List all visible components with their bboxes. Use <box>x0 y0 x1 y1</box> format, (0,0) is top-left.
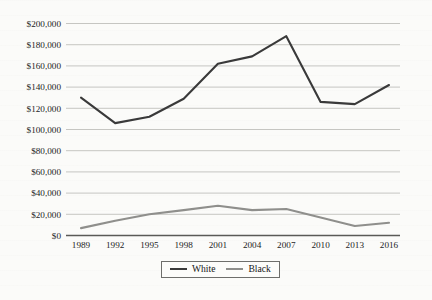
legend-entry-black: Black <box>226 264 270 274</box>
legend-label-white: White <box>192 264 215 274</box>
y-axis-tick-label: $60,000 <box>31 167 61 177</box>
x-axis-tick-label: 2013 <box>346 240 365 250</box>
line-chart-svg: $0$20,000$40,000$60,000$80,000$100,000$1… <box>0 0 432 300</box>
y-axis-tick-label: $20,000 <box>31 210 61 220</box>
x-axis-tick-label: 1992 <box>106 240 125 250</box>
y-axis-tick-label: $200,000 <box>27 19 62 29</box>
legend-label-black: Black <box>248 264 270 274</box>
y-axis-tick-label: $120,000 <box>27 104 62 114</box>
series-black-group <box>81 206 389 228</box>
y-axis-tick-label: $0 <box>52 231 62 241</box>
legend-entry-white: White <box>170 264 215 274</box>
x-axis-tick-label: 1998 <box>175 240 194 250</box>
x-axis-tick-label: 2001 <box>209 240 228 250</box>
y-axis-tick-labels: $0$20,000$40,000$60,000$80,000$100,000$1… <box>27 19 62 241</box>
plot-area: $0$20,000$40,000$60,000$80,000$100,000$1… <box>0 0 432 300</box>
chart-container: $0$20,000$40,000$60,000$80,000$100,000$1… <box>0 0 432 300</box>
y-axis-tick-label: $100,000 <box>27 125 62 135</box>
gridlines-group <box>66 24 400 215</box>
x-axis-tick-label: 1995 <box>140 240 159 250</box>
y-axis-tick-label: $140,000 <box>27 82 62 92</box>
y-axis-tick-label: $180,000 <box>27 40 62 50</box>
x-axis-tick-label: 2004 <box>243 240 262 250</box>
y-axis-tick-label: $160,000 <box>27 61 62 71</box>
x-axis-tick-label: 1989 <box>72 240 91 250</box>
legend-line-swatch-white-icon <box>170 268 187 270</box>
y-axis-tick-label: $80,000 <box>31 146 61 156</box>
chart-legend: White Black <box>161 261 280 278</box>
legend-line-swatch-black-icon <box>226 268 243 270</box>
series-white-group <box>81 36 389 123</box>
x-axis-tick-label: 2007 <box>277 240 296 250</box>
x-axis-tick-labels: 1989199219951998200120042007201020132016 <box>72 240 399 250</box>
x-axis-tick-label: 2010 <box>311 240 330 250</box>
x-axis-tick-label: 2016 <box>380 240 399 250</box>
y-axis-tick-label: $40,000 <box>31 188 61 198</box>
